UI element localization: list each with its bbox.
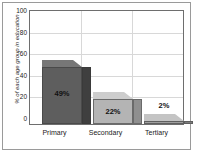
bar-secondary[interactable]: 22% <box>93 99 133 124</box>
y-tick-40: 40 <box>11 71 27 78</box>
bar-tertiary[interactable]: 2% <box>144 121 184 124</box>
y-tick-100: 100 <box>11 7 27 14</box>
chart-frame: % of each age group in education 0 20 40… <box>2 2 191 150</box>
gridline-60 <box>30 54 183 55</box>
x-axis-tick-labels: Primary Secondary Tertiary <box>29 129 184 143</box>
y-tick-0: 0 <box>11 115 27 122</box>
bar-primary-side-face <box>82 67 91 124</box>
y-axis-tick-labels: 0 20 40 60 80 100 <box>9 3 27 151</box>
bar-tertiary-side-face <box>184 121 193 124</box>
bar-tertiary-top-face <box>144 114 184 121</box>
bar-secondary-value: 22% <box>93 107 133 116</box>
y-tick-80: 80 <box>11 28 27 35</box>
bar-tertiary-front-face <box>144 121 184 124</box>
bar-primary-value: 49% <box>42 89 82 98</box>
x-label-tertiary: Tertiary <box>131 129 182 136</box>
bar-secondary-side-face <box>133 99 142 124</box>
x-label-primary: Primary <box>29 129 80 136</box>
bar-primary-top-face <box>42 60 82 67</box>
bar-secondary-top-face <box>93 92 133 99</box>
x-label-secondary: Secondary <box>80 129 131 136</box>
y-tick-20: 20 <box>11 93 27 100</box>
y-tick-60: 60 <box>11 50 27 57</box>
bar-primary[interactable]: 49% <box>42 67 82 124</box>
plot-area: 49% 22% 2% <box>29 10 184 125</box>
gridline-80 <box>30 33 183 34</box>
bar-tertiary-value: 2% <box>144 101 184 110</box>
